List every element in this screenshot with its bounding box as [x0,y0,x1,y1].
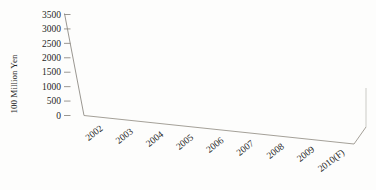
x-category-label: 2002 [84,123,105,143]
bar-2008 [264,52,295,140]
bar-2002 [87,92,110,120]
cylinder-bar-chart: 0500100015002000250030003500100 Million … [0,0,376,190]
cylinder-top [146,99,172,108]
x-category-label: 2008 [265,141,286,161]
y-tick-label: 2000 [42,53,61,63]
cylinder-top [205,77,234,87]
cylinder-top [176,88,203,98]
x-category-label: 2005 [174,132,195,152]
cylinder-top [264,52,295,63]
cylinder-side [117,89,141,124]
y-axis-title: 100 Million Yen [9,54,19,113]
bar-2003 [117,85,141,124]
y-tick-label: 1500 [42,67,61,77]
cylinder-side [264,58,295,141]
x-category-label: 2009 [295,144,316,164]
cylinder-top [87,92,110,100]
bar-2009 [294,44,327,143]
bar-2004 [146,99,172,127]
bar-2005 [176,88,203,131]
cylinder-top [323,32,357,44]
y-tick-label: 0 [56,111,61,121]
cylinder-top [294,44,327,56]
cylinder-side [235,70,265,137]
chart-figure: 0500100015002000250030003500100 Million … [0,0,376,190]
bar-2007 [235,64,265,137]
x-category-label: 2006 [204,135,225,155]
x-category-label: 2003 [114,126,135,146]
cylinder-side [205,83,234,134]
cylinder-top [117,85,141,94]
y-tick-label: 3000 [42,24,61,34]
cylinder-side [323,38,357,146]
cylinder-side [294,50,327,143]
bar-2010(F) [323,32,357,146]
y-tick-label: 500 [47,96,62,106]
bar-2006 [205,77,234,133]
cylinder-side [176,93,203,131]
x-category-label: 2004 [144,129,165,149]
cylinder-top [235,64,265,75]
x-category-label: 2007 [235,138,256,158]
y-tick-label: 2500 [42,39,61,49]
y-tick-label: 1000 [42,82,61,92]
x-category-label: 2010(F) [316,147,347,175]
y-tick-label: 3500 [42,10,61,20]
